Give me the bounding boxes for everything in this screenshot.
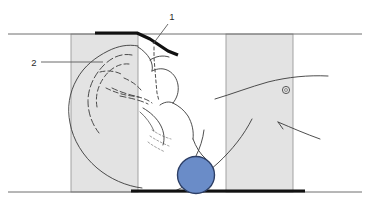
brow-ridge-line: [138, 47, 152, 71]
dashed-vertical-guide: [154, 47, 159, 101]
callout-2-label: 2: [31, 57, 36, 68]
mouth-curve-line: [143, 108, 164, 145]
jaw-line: [173, 103, 193, 139]
anatomical-diagram: 1 2: [0, 0, 370, 202]
chin-shade-line: [160, 102, 173, 105]
hair-strand-lines: [148, 130, 171, 152]
figure-container: 1 2: [0, 0, 370, 202]
nose-bridge-line: [150, 56, 169, 60]
callout-1-label: 1: [169, 11, 174, 22]
band-left: [71, 34, 138, 192]
support-pad: [178, 157, 215, 194]
band-right: [226, 34, 293, 192]
